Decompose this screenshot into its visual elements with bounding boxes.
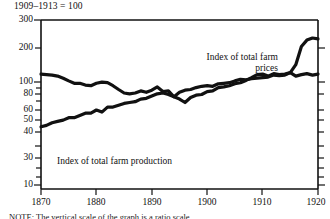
ytick-label-200: 200 <box>7 42 33 52</box>
xtick-label-1890: 1890 <box>135 197 169 207</box>
x-axis-ticks <box>41 189 318 195</box>
chart-caption: NOTE: The vertical scale of the graph is… <box>9 212 192 219</box>
ytick-label-80: 80 <box>7 88 33 98</box>
xtick-label-1910: 1910 <box>245 197 279 207</box>
ytick-label-50: 50 <box>7 114 33 124</box>
ytick-label-300: 300 <box>7 14 33 24</box>
xtick-label-1880: 1880 <box>79 197 113 207</box>
series-label-farm-prices-line1: Index of total farm <box>207 52 279 62</box>
ytick-label-30: 30 <box>7 152 33 162</box>
xtick-label-1900: 1900 <box>190 197 224 207</box>
ytick-label-10: 10 <box>7 179 33 189</box>
plot-area <box>0 0 330 219</box>
xtick-label-1870: 1870 <box>24 197 58 207</box>
farm-index-chart: 1909–1913 = 100 <box>0 0 330 219</box>
ytick-label-100: 100 <box>7 76 33 86</box>
series-label-farm-prices: Index of total farm prices <box>186 52 278 74</box>
xtick-label-1920: 1920 <box>299 197 330 207</box>
series-label-farm-prices-line2: prices <box>255 63 278 73</box>
ytick-label-60: 60 <box>7 104 33 114</box>
y-axis-right-ticks <box>318 48 325 185</box>
ytick-label-40: 40 <box>7 126 33 136</box>
y-axis-ticks <box>34 20 41 185</box>
series-label-farm-production: Index of total farm production <box>57 156 172 167</box>
